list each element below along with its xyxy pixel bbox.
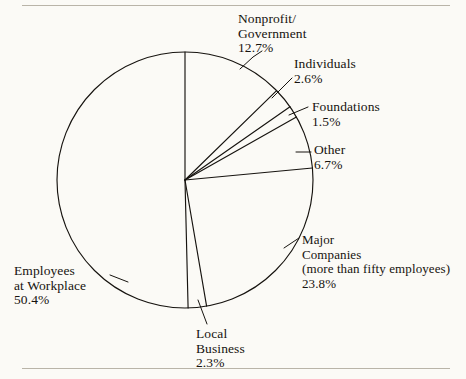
slice-label-local-business: Local Business 2.3% [196,327,245,371]
slice-divider-individuals-foundations [185,107,290,180]
slice-label-local-line2: Business [196,342,245,357]
slice-label-foundations-line1: Foundations [312,100,380,115]
slice-label-individuals-line1: Individuals [294,57,356,72]
slice-label-employees-at-workplace: Employees at Workplace 50.4% [14,264,86,308]
slice-value-nonprofit: 12.7% [238,41,306,56]
leader-line-foundations [289,107,308,115]
slice-value-employees: 50.4% [14,293,86,308]
slice-label-major-line2: Companies [302,248,450,263]
slice-divider-local-employees [185,180,188,308]
slice-value-individuals: 2.6% [294,72,356,87]
slice-label-individuals: Individuals 2.6% [294,57,356,86]
slice-value-other: 6.7% [314,158,345,173]
slice-label-other: Other 6.7% [314,143,345,172]
slice-label-major-companies: Major Companies (more than fifty employe… [302,233,450,291]
slice-value-local: 2.3% [196,356,245,371]
slice-label-foundations: Foundations 1.5% [312,100,380,129]
leader-line-individuals [272,78,292,98]
slice-label-local-line1: Local [196,327,245,342]
slice-label-major-line1: Major [302,233,450,248]
slice-label-other-line1: Other [314,143,345,158]
slice-divider-major-local [185,180,207,306]
pie-chart-figure: Nonprofit/ Government 12.7% Individuals … [0,0,466,379]
slice-value-foundations: 1.5% [312,115,380,130]
slice-label-employees-line2: at Workplace [14,279,86,294]
leader-line-employees [110,275,128,282]
slice-label-nonprofit: Nonprofit/ Government 12.7% [238,12,306,56]
slice-value-major: 23.8% [302,277,450,292]
slice-label-employees-line1: Employees [14,264,86,279]
slice-label-nonprofit-line2: Government [238,27,306,42]
slice-label-major-line3: (more than fifty employees) [302,262,450,277]
slice-label-nonprofit-line1: Nonprofit/ [238,12,306,27]
pie-chart-graphic [0,0,466,379]
slice-divider-nonprofit-individuals [185,91,277,180]
